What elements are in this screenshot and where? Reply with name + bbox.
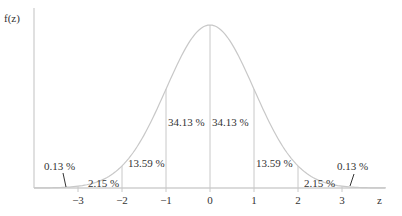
- right-tail-pointer: [350, 174, 354, 186]
- sd-divider-lines: [78, 25, 342, 192]
- region-label-2-3: 2.15 %: [304, 177, 335, 189]
- tick-2: 2: [295, 194, 301, 206]
- tick-0: 0: [207, 194, 213, 206]
- x-axis-label: z: [377, 194, 382, 206]
- region-label-1-2: 13.59 %: [256, 157, 293, 169]
- normal-distribution-chart: f(z) z −3 −2 −1 0 1 2 3 0.13 % 2.15 % 13…: [0, 0, 402, 216]
- tick-minus-3: −3: [72, 194, 84, 206]
- region-label-left-tail: 0.13 %: [44, 160, 75, 172]
- tick-3: 3: [339, 194, 345, 206]
- region-label-minus1-0: 34.13 %: [168, 116, 205, 128]
- region-label-minus3-minus2: 2.15 %: [88, 177, 119, 189]
- y-axis-label: f(z): [4, 12, 20, 25]
- left-tail-pointer: [63, 173, 66, 187]
- region-label-0-1: 34.13 %: [212, 116, 249, 128]
- tick-minus-1: −1: [160, 194, 172, 206]
- region-label-right-tail: 0.13 %: [337, 160, 368, 172]
- region-label-minus2-minus1: 13.59 %: [128, 157, 165, 169]
- tick-1: 1: [251, 194, 257, 206]
- tick-minus-2: −2: [116, 194, 128, 206]
